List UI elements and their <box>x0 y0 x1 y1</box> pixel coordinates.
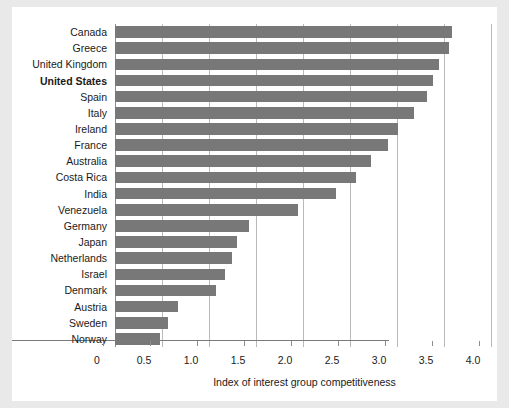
x-tick-label-0: 0 <box>94 354 100 366</box>
x-tick-label-0.5: 0.5 <box>137 354 152 366</box>
gridline-3.5 <box>444 24 445 347</box>
bar-row <box>115 317 491 329</box>
bar-row <box>115 236 491 248</box>
category-label-venezuela: Venezuela <box>58 205 107 216</box>
x-tick-mark-1.5 <box>244 341 245 346</box>
bar-netherlands <box>115 252 232 264</box>
category-label-austria: Austria <box>74 302 107 313</box>
category-label-denmark: Denmark <box>64 285 107 296</box>
bar-greece <box>115 42 449 54</box>
bar-row <box>115 75 491 87</box>
bar-germany <box>115 220 249 232</box>
x-axis-tick-labels: 00.51.01.52.02.53.03.54.0 <box>12 354 509 370</box>
category-label-germany: Germany <box>64 221 107 232</box>
bar-denmark <box>115 285 216 297</box>
category-label-united-states: United States <box>40 76 107 87</box>
x-tick-mark-3.5 <box>432 341 433 346</box>
bar-row <box>115 285 491 297</box>
bar-row <box>115 301 491 313</box>
gridline-3.0 <box>397 24 398 347</box>
bar-row <box>115 42 491 54</box>
bar-costa-rica <box>115 172 356 184</box>
bar-norway <box>115 333 160 345</box>
x-tick-label-2.0: 2.0 <box>278 354 293 366</box>
category-label-australia: Australia <box>66 156 107 167</box>
gridline-2.5 <box>350 24 351 347</box>
gridline-2.0 <box>303 24 304 347</box>
category-label-netherlands: Netherlands <box>50 253 107 264</box>
category-label-italy: Italy <box>88 108 107 119</box>
bar-row <box>115 269 491 281</box>
category-label-canada: Canada <box>70 27 107 38</box>
bar-austria <box>115 301 178 313</box>
bar-row <box>115 155 491 167</box>
x-tick-label-1.0: 1.0 <box>184 354 199 366</box>
bar-row <box>115 333 491 345</box>
category-label-france: France <box>74 140 107 151</box>
bar-italy <box>115 107 414 119</box>
gridline-4.0 <box>491 24 492 347</box>
x-tick-label-4.0: 4.0 <box>466 354 481 366</box>
bar-japan <box>115 236 237 248</box>
category-label-sweden: Sweden <box>69 318 107 329</box>
category-label-israel: Israel <box>81 269 107 280</box>
x-tick-mark-0.5 <box>150 341 151 346</box>
bar-spain <box>115 91 427 103</box>
category-label-united-kingdom: United Kingdom <box>32 59 107 70</box>
gridline-0 <box>115 24 116 347</box>
bar-france <box>115 139 388 151</box>
bar-sweden <box>115 317 168 329</box>
bar-canada <box>115 26 452 38</box>
x-axis-title: Index of interest group competitiveness <box>12 376 509 388</box>
x-tick-mark-1.0 <box>197 341 198 346</box>
category-label-costa-rica: Costa Rica <box>56 172 107 183</box>
bar-row <box>115 139 491 151</box>
x-tick-mark-3.0 <box>385 341 386 346</box>
gridline-1.0 <box>209 24 210 347</box>
chart-canvas: CanadaGreeceUnited KingdomUnited StatesS… <box>12 7 497 401</box>
category-label-greece: Greece <box>73 43 107 54</box>
x-tick-label-1.5: 1.5 <box>231 354 246 366</box>
bar-united-states <box>115 75 433 87</box>
bar-venezuela <box>115 204 298 216</box>
bar-australia <box>115 155 371 167</box>
bar-row <box>115 172 491 184</box>
plot-area <box>115 24 491 347</box>
bar-row <box>115 91 491 103</box>
bar-row <box>115 59 491 71</box>
category-label-india: India <box>84 189 107 200</box>
gridline-0.5 <box>162 24 163 347</box>
bar-row <box>115 188 491 200</box>
x-tick-label-3.5: 3.5 <box>419 354 434 366</box>
bar-ireland <box>115 123 398 135</box>
bar-row <box>115 123 491 135</box>
figure: CanadaGreeceUnited KingdomUnited StatesS… <box>0 0 509 408</box>
bar-israel <box>115 269 225 281</box>
bar-row <box>115 26 491 38</box>
bar-united-kingdom <box>115 59 439 71</box>
bar-row <box>115 204 491 216</box>
x-tick-mark-2.5 <box>338 341 339 346</box>
category-label-norway: Norway <box>71 334 107 345</box>
bar-india <box>115 188 336 200</box>
x-axis-title-text: Index of interest group competitiveness <box>213 376 396 388</box>
category-label-spain: Spain <box>80 92 107 103</box>
gridline-1.5 <box>256 24 257 347</box>
x-tick-label-3.0: 3.0 <box>372 354 387 366</box>
x-tick-mark-0 <box>103 341 104 346</box>
y-axis-category-labels: CanadaGreeceUnited KingdomUnited StatesS… <box>12 24 115 347</box>
bar-row <box>115 107 491 119</box>
category-label-japan: Japan <box>78 237 107 248</box>
bar-row <box>115 252 491 264</box>
x-tick-mark-2.0 <box>291 341 292 346</box>
x-tick-label-2.5: 2.5 <box>325 354 340 366</box>
bar-row <box>115 220 491 232</box>
category-label-ireland: Ireland <box>75 124 107 135</box>
x-tick-mark-4.0 <box>479 341 480 346</box>
